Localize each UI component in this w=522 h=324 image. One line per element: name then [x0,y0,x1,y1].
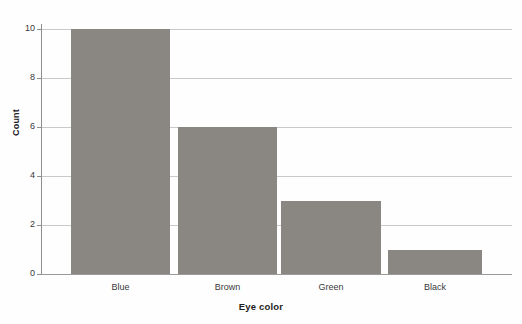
y-axis-tick-label: 4 [30,171,35,180]
x-axis-tick-label-black: Black [395,282,475,292]
x-axis-title: Eye color [0,301,522,312]
y-axis-tick-label: 10 [25,24,35,33]
x-axis-baseline [42,274,512,275]
x-axis-tick-label-green: Green [291,282,371,292]
y-axis-tick-label: 6 [30,122,35,131]
bar-blue[interactable] [71,29,170,274]
y-axis-tick-label: 0 [30,269,35,278]
bar-green[interactable] [281,201,381,275]
bar-chart-figure: 0246810 Count BlueBrownGreenBlack Eye co… [0,0,522,324]
bar-black[interactable] [388,250,482,275]
y-axis-title: Count [11,109,21,136]
plot-area [42,29,512,274]
y-axis-tick-label: 8 [30,73,35,82]
y-axis-tick-labels: 0246810 [0,0,35,324]
bar-brown[interactable] [178,127,277,274]
x-axis-tick-label-brown: Brown [188,282,268,292]
x-axis-tick-label-blue: Blue [81,282,161,292]
y-axis-tick-label: 2 [30,220,35,229]
y-axis-tick-mark [37,274,42,275]
